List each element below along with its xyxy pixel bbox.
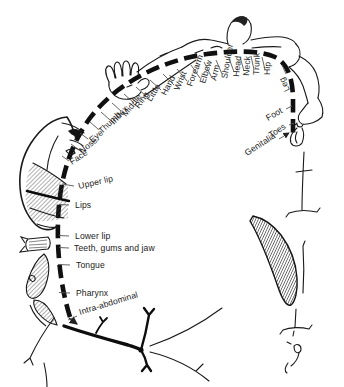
vessel-spur [96, 317, 107, 333]
label-tongue: Tongue [76, 260, 105, 270]
medial-stem-lower [280, 309, 312, 336]
mouth-structures [20, 237, 57, 326]
outline-left-curve [24, 318, 54, 365]
back-hip-outline [251, 37, 296, 48]
medial-crescent-side-line [303, 241, 305, 293]
medial-crescent-icon [250, 216, 297, 305]
leader-lower-lip [59, 236, 69, 237]
sensory-homunculus-diagram: Intra-abdominalPharynxTongueTeeth, gums … [0, 0, 344, 387]
cortex-arc [58, 52, 293, 324]
buttock-outline [289, 44, 300, 67]
medial-structures [250, 152, 320, 373]
vessel-node [138, 347, 143, 352]
leader-pharynx [59, 293, 70, 294]
medial-stem-upper [296, 152, 312, 210]
label-leg: Leg [277, 76, 292, 94]
label-trunk: Trunk [251, 52, 262, 75]
tongue-sketch-icon [26, 254, 48, 298]
label-hip: Hip [262, 62, 272, 75]
teeth-sketch-icon [20, 237, 50, 252]
vessel-main [64, 326, 141, 350]
chin-crease [37, 224, 58, 227]
pharynx-outline [34, 300, 57, 325]
label-teeth-gums-jaw: Teeth, gums and jaw [74, 243, 155, 253]
vessel-branch-up [141, 308, 154, 350]
medial-squiggle-icon [285, 342, 301, 373]
outline-left-drop [44, 363, 47, 387]
leader-teeth-gums-jaw [59, 248, 69, 249]
label-lower-lip: Lower lip [75, 231, 110, 241]
label-upper-lip: Upper lip [77, 173, 114, 191]
pharynx-sketch-icon [30, 300, 57, 326]
medial-tbar-upper [286, 208, 320, 217]
outline-right-drop [150, 352, 209, 381]
label-pharynx: Pharynx [76, 288, 109, 298]
foot-icon [292, 98, 323, 127]
outline-right-curve [150, 308, 222, 346]
vessel-branch-down [141, 350, 151, 371]
leg-outline [289, 56, 319, 103]
figure-hair-icon [231, 16, 247, 26]
label-foot: Foot [264, 105, 285, 123]
tooth-hatch [29, 240, 47, 248]
diagram-canvas: Intra-abdominalPharynxTongueTeeth, gums … [0, 0, 344, 387]
cheek-line [47, 136, 58, 170]
labels-layer: Intra-abdominalPharynxTongueTeeth, gums … [58, 43, 294, 320]
torso-outline [160, 39, 228, 56]
hand-fingers-icon [106, 61, 149, 90]
leader-tongue [58, 265, 70, 266]
homunculus-face [20, 117, 84, 230]
vessel-branches [64, 308, 154, 371]
label-genitalia: Genitalia [243, 130, 278, 157]
leader-lips [59, 205, 69, 206]
label-lips: Lips [75, 200, 91, 210]
